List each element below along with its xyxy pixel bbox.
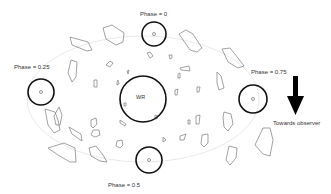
arrow-down-icon bbox=[287, 76, 304, 115]
phase-0.5-label: Phase = 0.5 bbox=[108, 182, 140, 188]
phase-0.25-label: Phase = 0.25 bbox=[14, 64, 50, 70]
companions bbox=[28, 22, 267, 173]
companion-cores bbox=[40, 33, 255, 162]
towards-observer-label: Towards observer bbox=[273, 120, 320, 126]
wr-star-label: WR bbox=[136, 95, 145, 101]
diagram-canvas bbox=[0, 0, 331, 194]
phase-0-label: Phase = 0 bbox=[140, 11, 167, 17]
phase-0.75-label: Phase = 0.75 bbox=[251, 69, 287, 75]
